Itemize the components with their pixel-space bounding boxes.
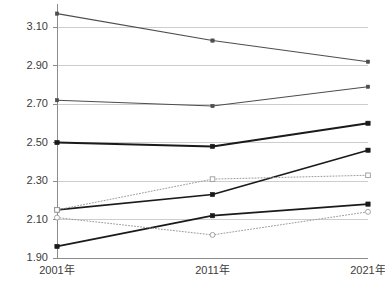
y-tick-label-2.90: 2.90	[27, 59, 48, 71]
series-line-series-5	[57, 204, 368, 246]
marker-series-4-1	[210, 192, 214, 196]
marker-series-2-0	[55, 99, 58, 102]
marker-series-7-0	[55, 215, 60, 220]
y-tick-label-3.10: 3.10	[27, 20, 48, 32]
y-tick-label-1.90: 1.90	[27, 251, 48, 263]
marker-series-1-2	[366, 60, 369, 63]
marker-series-5-1	[210, 213, 214, 217]
x-tick-label-0: 2001年	[39, 263, 74, 276]
line-chart: 1.902.102.302.502.702.903.10 2001年2011年2…	[0, 0, 385, 284]
y-tick-label-2.70: 2.70	[27, 97, 48, 109]
marker-series-7-1	[210, 232, 215, 237]
marker-series-6-1	[210, 177, 215, 182]
gridline-group	[57, 27, 368, 258]
marker-series-4-2	[366, 148, 370, 152]
marker-series-2-2	[366, 85, 369, 88]
x-tick-label-1: 2011年	[195, 263, 230, 276]
marker-series-1-1	[211, 39, 214, 42]
x-axis-tick-labels: 2001年2011年2021年	[39, 263, 385, 276]
y-tick-label-2.10: 2.10	[27, 213, 48, 225]
marker-series-3-2	[366, 121, 370, 125]
marker-series-6-0	[55, 208, 60, 213]
y-tick-label-2.30: 2.30	[27, 174, 48, 186]
y-tick-label-2.50: 2.50	[27, 136, 48, 148]
series-line-series-1	[57, 14, 368, 62]
marker-series-1-0	[55, 12, 58, 15]
marker-series-3-0	[55, 140, 59, 144]
marker-series-7-2	[366, 209, 371, 214]
series-line-group	[57, 14, 368, 247]
x-tick-label-2: 2021年	[350, 263, 385, 276]
marker-series-3-1	[210, 144, 214, 148]
marker-series-5-0	[55, 244, 59, 248]
marker-series-2-1	[211, 104, 214, 107]
marker-series-6-2	[366, 173, 371, 178]
marker-series-5-2	[366, 202, 370, 206]
y-axis-tick-labels: 1.902.102.302.502.702.903.10	[27, 20, 48, 263]
series-line-series-2	[57, 87, 368, 106]
chart-plot-area: 1.902.102.302.502.702.903.10 2001年2011年2…	[0, 0, 385, 284]
